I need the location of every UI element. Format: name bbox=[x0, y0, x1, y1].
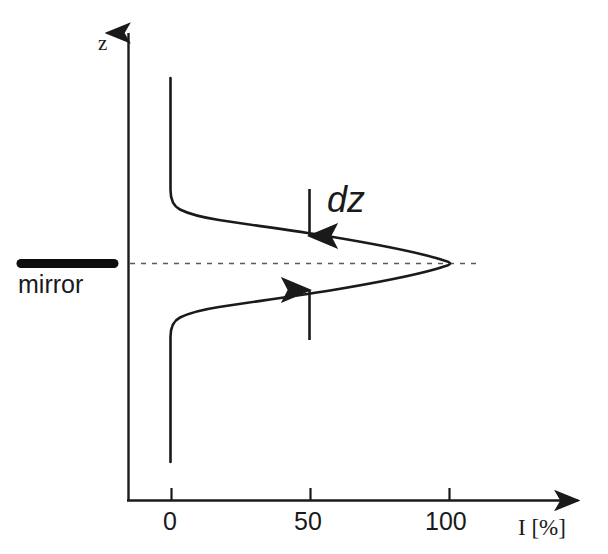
dz-label: dz bbox=[327, 182, 365, 218]
mirror-label: mirror bbox=[18, 272, 83, 297]
figure-canvas bbox=[0, 0, 608, 554]
z-axis-label: z bbox=[98, 33, 107, 54]
x-tick-label-50: 50 bbox=[294, 509, 322, 534]
intensity-curve bbox=[171, 78, 451, 462]
x-axis-ticks bbox=[172, 488, 450, 501]
x-tick-label-100: 100 bbox=[425, 509, 467, 534]
x-axis-label: I [%] bbox=[518, 516, 566, 539]
intensity-profile-figure: z I [%] 0 50 100 mirror dz bbox=[0, 0, 608, 554]
axes-group bbox=[127, 33, 578, 501]
x-tick-label-0: 0 bbox=[163, 509, 177, 534]
